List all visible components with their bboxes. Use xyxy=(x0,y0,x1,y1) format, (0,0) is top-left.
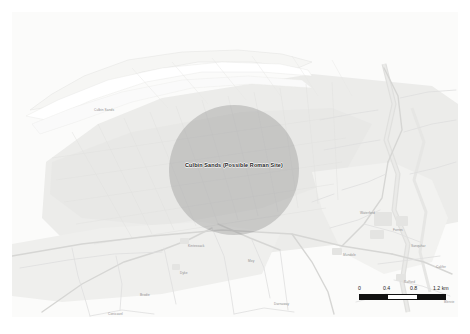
place-label: Darnaway xyxy=(274,302,289,306)
scale-tick-2: 0.8 xyxy=(410,285,417,291)
place-label: Culbin Sands xyxy=(94,108,114,112)
place-label: Califer xyxy=(436,265,446,269)
place-label: Mundole xyxy=(343,253,356,257)
place-label: Kintessack xyxy=(188,244,204,248)
place-label: Rafford xyxy=(404,280,415,284)
map-canvas[interactable]: Culbin Sands (Possible Roman Site) Culbi… xyxy=(12,12,458,317)
place-label: Brodie xyxy=(140,293,150,297)
place-label: Conicavel xyxy=(108,312,123,316)
scale-tick-0: 0 xyxy=(358,285,361,291)
scale-segment xyxy=(417,295,445,299)
place-label: Dyke xyxy=(180,271,188,275)
scale-tick-3: 1.2 km xyxy=(433,285,449,291)
place-label: Waterford xyxy=(360,211,375,215)
place-label: Moy xyxy=(248,259,254,263)
site-radius-circle[interactable] xyxy=(169,105,299,235)
scale-tick-1: 0.4 xyxy=(383,285,390,291)
scale-bar-ticks: 0 0.4 0.8 1.2 km xyxy=(350,285,450,294)
scale-bar-segments xyxy=(359,294,446,300)
place-label: Blervie xyxy=(444,300,454,304)
site-label: Culbin Sands (Possible Roman Site) xyxy=(169,161,299,169)
place-label: Sanquhar xyxy=(411,244,426,248)
scale-segment xyxy=(360,295,388,299)
scale-bar: 0 0.4 0.8 1.2 km xyxy=(350,285,450,300)
place-label: Forres xyxy=(393,228,403,232)
map-figure: Culbin Sands (Possible Roman Site) Culbi… xyxy=(0,0,470,334)
scale-segment xyxy=(388,295,416,299)
